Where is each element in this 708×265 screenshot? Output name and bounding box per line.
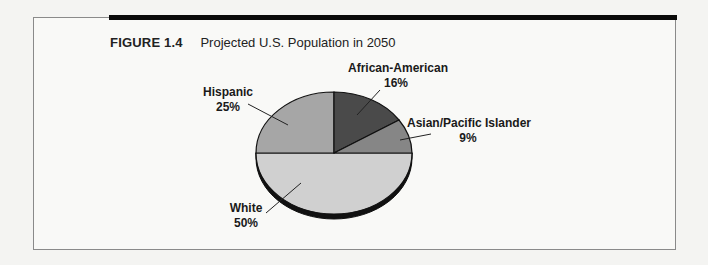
slice-white[interactable] (256, 153, 412, 214)
label-african-american: African-American (348, 61, 448, 75)
label-hispanic-pct: 25% (216, 100, 240, 114)
label-white: White (230, 201, 263, 215)
label-asian-pacific-islander-pct: 9% (459, 131, 477, 145)
label-white-pct: 50% (234, 216, 258, 230)
label-hispanic: Hispanic (203, 85, 253, 99)
label-african-american-pct: 16% (384, 76, 408, 90)
label-asian-pacific-islander: Asian/Pacific Islander (407, 116, 531, 130)
pie-chart: African-American 16% Asian/Pacific Islan… (0, 0, 708, 265)
slice-hispanic[interactable] (256, 92, 334, 153)
